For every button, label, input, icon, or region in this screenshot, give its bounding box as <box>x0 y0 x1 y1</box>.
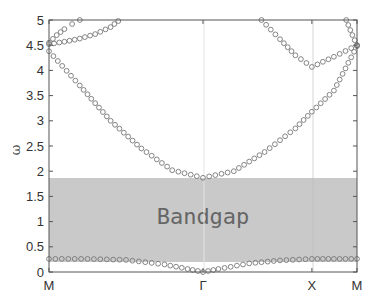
data-point <box>62 39 67 44</box>
x-tick-label: M <box>44 278 55 293</box>
data-point <box>301 118 306 123</box>
data-point <box>60 64 65 69</box>
data-point <box>257 153 262 158</box>
data-point <box>170 168 175 173</box>
data-point <box>135 142 140 147</box>
data-point <box>315 62 320 67</box>
data-point <box>349 55 354 60</box>
data-point <box>278 138 283 143</box>
x-tick-label: M <box>352 278 363 293</box>
band-5-markers <box>259 18 359 70</box>
data-point <box>326 57 331 62</box>
data-point <box>93 101 98 106</box>
data-point <box>185 267 190 272</box>
data-point <box>179 265 184 270</box>
data-point <box>149 153 154 158</box>
data-point <box>241 262 246 267</box>
data-point <box>222 266 227 271</box>
data-point <box>93 32 98 37</box>
data-point <box>57 40 62 45</box>
data-point <box>282 41 287 46</box>
data-point <box>69 73 74 78</box>
data-point <box>327 92 332 97</box>
data-point <box>228 264 233 269</box>
data-point <box>206 269 211 274</box>
data-point <box>77 36 82 41</box>
y-tick-label: 1 <box>37 214 44 229</box>
data-point <box>139 146 144 151</box>
y-tick-label: 2 <box>37 164 44 179</box>
data-point <box>55 59 60 64</box>
data-point <box>242 162 247 167</box>
data-point <box>154 157 159 162</box>
data-point <box>346 23 351 28</box>
data-point <box>168 263 173 268</box>
band-structure-chart: Bandgap 00.511.522.533.544.55 MΓXM ω <box>0 0 377 304</box>
data-point <box>67 38 72 43</box>
data-point <box>350 33 355 38</box>
data-point <box>299 57 304 62</box>
data-point <box>332 88 337 93</box>
data-point <box>103 27 108 32</box>
y-tick-label: 3.5 <box>26 88 44 103</box>
data-point <box>343 66 348 71</box>
data-point <box>101 110 106 115</box>
data-point <box>97 105 102 110</box>
data-point <box>297 122 302 127</box>
data-point <box>288 130 293 135</box>
data-point <box>268 27 273 32</box>
data-point <box>219 171 224 176</box>
data-point <box>293 53 298 58</box>
y-tick-label: 5 <box>37 13 44 28</box>
data-point <box>267 146 272 151</box>
data-point <box>348 28 353 33</box>
data-point <box>332 54 337 59</box>
bandgap-annotation: Bandgap <box>157 204 250 229</box>
data-point <box>85 92 90 97</box>
y-tick-label: 4 <box>37 63 44 78</box>
data-point <box>247 159 252 164</box>
data-point <box>321 59 326 64</box>
data-point <box>176 169 181 174</box>
data-point <box>194 174 199 179</box>
y-tick-label: 3 <box>37 113 44 128</box>
data-point <box>304 61 309 66</box>
data-point <box>323 97 328 102</box>
data-point <box>160 161 165 166</box>
data-point <box>64 68 69 73</box>
data-point <box>121 130 126 135</box>
data-point <box>231 169 236 174</box>
data-point <box>144 150 149 155</box>
data-point <box>51 54 56 59</box>
data-point <box>77 83 82 88</box>
data-point <box>126 134 131 139</box>
y-tick-label: 0.5 <box>26 239 44 254</box>
data-point <box>289 49 294 54</box>
x-tick-label: X <box>308 278 317 293</box>
data-point <box>81 88 86 93</box>
y-tick-label: 1.5 <box>26 189 44 204</box>
data-point <box>334 83 339 88</box>
data-point <box>89 96 94 101</box>
data-point <box>70 22 75 27</box>
data-point <box>283 134 288 139</box>
data-point <box>188 172 193 177</box>
data-point <box>337 52 342 57</box>
data-point <box>165 164 170 169</box>
data-point <box>278 37 283 42</box>
data-point <box>88 33 93 38</box>
data-point <box>51 37 56 42</box>
data-point <box>310 65 315 70</box>
data-point <box>156 261 161 266</box>
data-point <box>252 156 257 161</box>
data-point <box>285 45 290 50</box>
data-point <box>213 173 218 178</box>
data-point <box>113 122 118 127</box>
data-point <box>235 263 240 268</box>
data-point <box>349 46 354 51</box>
data-point <box>293 126 298 131</box>
data-point <box>98 29 103 34</box>
data-point <box>225 170 230 175</box>
data-point <box>314 105 319 110</box>
data-point <box>196 269 201 274</box>
